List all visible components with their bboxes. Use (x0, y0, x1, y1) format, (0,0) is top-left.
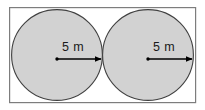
left-radius-label: 5 m (62, 41, 84, 54)
figure-canvas (0, 0, 205, 110)
right-radius-label: 5 m (153, 41, 175, 54)
left-circle (12, 10, 103, 101)
right-circle (103, 10, 194, 101)
geometry-figure: 5 m 5 m (0, 0, 205, 110)
